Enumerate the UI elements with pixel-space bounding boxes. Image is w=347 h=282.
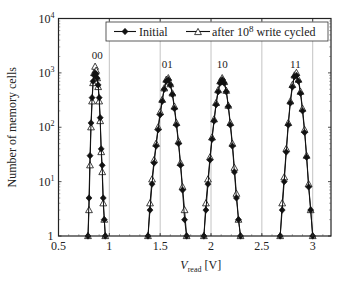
diamond-marker: [223, 89, 229, 95]
chart-figure: 00011011 0.511.522.531101102103104 Initi…: [0, 0, 347, 282]
x-tick-label: 2.5: [254, 239, 269, 253]
legend: Initialafter 108 write cycled: [106, 22, 328, 41]
axis-labels: Vread [V]Number of memory cells: [5, 67, 221, 274]
diamond-marker: [97, 114, 103, 120]
diamond-marker: [225, 103, 231, 109]
legend-label-cycled: after 108 write cycled: [212, 24, 315, 39]
diamond-marker: [161, 86, 167, 92]
diamond-marker: [96, 94, 102, 100]
diamond-marker: [88, 120, 94, 126]
diamond-marker: [147, 207, 153, 213]
diamond-marker: [100, 195, 106, 201]
x-tick-label: 1.5: [153, 239, 168, 253]
diamond-marker: [279, 207, 285, 213]
diamond-marker: [304, 154, 310, 160]
x-tick-label: 2: [208, 239, 214, 253]
diamond-marker: [297, 90, 303, 96]
diamond-marker: [98, 146, 104, 152]
diamond-marker: [215, 89, 221, 95]
diamond-marker: [89, 94, 95, 100]
y-axis-label: Number of memory cells: [5, 67, 19, 188]
legend-label-initial: Initial: [139, 25, 168, 39]
state-label-11: 11: [290, 58, 301, 70]
diamond-marker: [287, 100, 293, 106]
diamond-marker: [295, 78, 301, 84]
plot-series: [85, 63, 317, 239]
y-tick-label: 104: [39, 11, 55, 26]
x-axis-label: Vread [V]: [180, 258, 221, 274]
state-label-10: 10: [217, 58, 229, 70]
state-label-01: 01: [162, 58, 173, 70]
peak-annotations: 00011011: [92, 49, 301, 70]
diamond-marker: [86, 195, 92, 201]
diamond-marker: [87, 152, 93, 158]
y-tick-label: 101: [39, 174, 55, 189]
x-tick-label: 3: [310, 239, 316, 253]
diamond-marker: [182, 216, 188, 222]
x-tick-label: 1: [106, 239, 112, 253]
diamond-marker: [169, 91, 175, 97]
triangle-marker: [181, 206, 188, 212]
diamond-marker: [99, 162, 105, 168]
state-label-00: 00: [92, 49, 104, 61]
y-tick-label: 1: [48, 229, 54, 243]
chart-canvas: 00011011 0.511.522.531101102103104 Initi…: [0, 0, 347, 282]
y-tick-label: 102: [39, 119, 55, 134]
diamond-marker: [203, 207, 209, 213]
y-tick-label: 103: [39, 65, 55, 80]
